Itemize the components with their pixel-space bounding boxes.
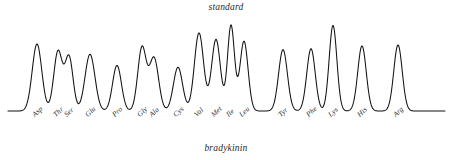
chromatogram-figure: standard AspThrSerGluProGlyAlaCysValMetI… — [0, 0, 452, 160]
chromatogram-trace — [0, 14, 452, 118]
chart-title: standard — [0, 2, 452, 12]
chart-plot-area — [0, 14, 452, 118]
peak-label-row: AspThrSerGluProGlyAlaCysValMetIleLeuTyrP… — [0, 112, 452, 142]
trace-path — [8, 25, 445, 111]
chart-caption: bradykinin — [0, 143, 452, 153]
